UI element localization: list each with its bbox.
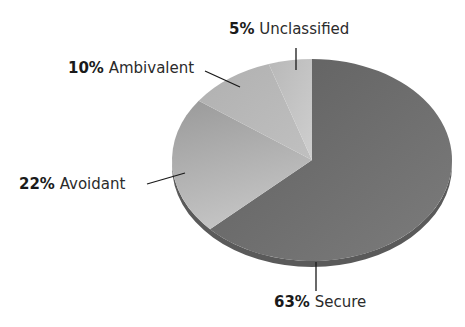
label-ambivalent-pct: 10% [68,59,104,77]
pie-chart [0,0,465,327]
label-avoidant-name: Avoidant [60,175,126,193]
label-ambivalent: 10% Ambivalent [68,59,194,77]
label-ambivalent-name: Ambivalent [109,59,194,77]
label-unclassified-name: Unclassified [259,20,349,38]
label-secure-pct: 63% [274,293,310,311]
label-unclassified-pct: 5% [229,20,254,38]
pie-slices [172,59,452,267]
label-avoidant-pct: 22% [19,175,55,193]
label-secure-name: Secure [315,293,367,311]
label-secure: 63% Secure [274,293,366,311]
label-unclassified: 5% Unclassified [229,20,349,38]
label-avoidant: 22% Avoidant [19,175,125,193]
